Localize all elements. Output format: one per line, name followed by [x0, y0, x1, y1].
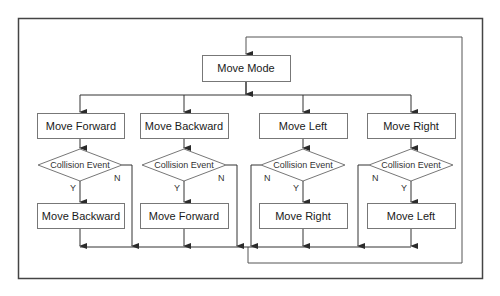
branch-connector [80, 82, 411, 112]
yes-action-label: Move Right [275, 210, 331, 222]
action-node-label: Move Right [383, 120, 439, 132]
branch-move-backward: Move Backward Collision Event Y N Move F… [141, 114, 238, 247]
action-node-label: Move Backward [145, 120, 223, 132]
action-node-label: Move Forward [46, 120, 116, 132]
yes-action-label: Move Left [387, 210, 435, 222]
yes-label: Y [174, 183, 180, 193]
decision-label: Collision Event [381, 160, 441, 170]
no-label: N [264, 173, 271, 183]
decision-label: Collision Event [50, 160, 110, 170]
no-label: N [218, 173, 225, 183]
decision-label: Collision Event [154, 160, 214, 170]
flowchart-canvas: Move Mode Move Forward Collision Event Y… [0, 0, 500, 296]
decision-label: Collision Event [273, 160, 333, 170]
yes-action-label: Move Backward [42, 210, 120, 222]
no-label: N [372, 173, 379, 183]
start-node-move-mode: Move Mode [203, 56, 291, 82]
branch-move-right: Move Right Collision Event Y N Move Left [358, 114, 456, 247]
yes-label: Y [401, 183, 407, 193]
no-label: N [114, 173, 121, 183]
action-node-label: Move Left [279, 120, 327, 132]
yes-label: Y [293, 183, 299, 193]
yes-label: Y [70, 183, 76, 193]
start-node-label: Move Mode [217, 62, 274, 74]
branch-move-forward: Move Forward Collision Event Y N Move Ba… [38, 114, 133, 247]
branch-move-left: Move Left Collision Event Y N Move Right [251, 114, 348, 247]
yes-action-label: Move Forward [149, 210, 219, 222]
